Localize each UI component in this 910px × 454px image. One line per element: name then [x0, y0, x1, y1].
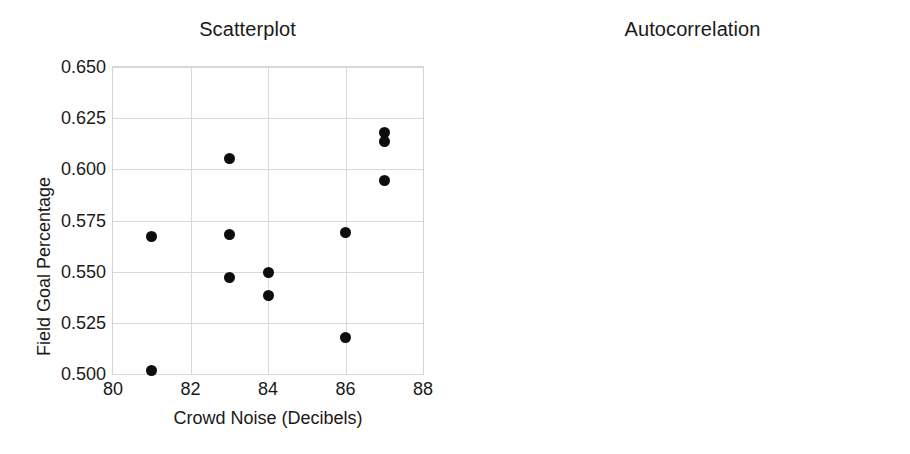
- chart-panel-scatterplot: Scatterplot 0.5000.5250.5500.5750.6000.6…: [0, 0, 455, 454]
- y-axis-title-scatterplot: Field Goal Percentage: [34, 177, 55, 356]
- y-axis-tick-label-scatterplot: 0.600: [61, 159, 113, 180]
- plot-area-scatterplot: 0.5000.5250.5500.5750.6000.6250.65080828…: [112, 66, 424, 375]
- y-axis-tick-label-scatterplot: 0.575: [61, 210, 113, 231]
- data-point: [340, 227, 351, 238]
- y-axis-tick-label-scatterplot: 0.650: [61, 57, 113, 78]
- data-point: [146, 231, 157, 242]
- x-axis-title-scatterplot: Crowd Noise (Decibels): [112, 408, 424, 429]
- figure-container: Scatterplot 0.5000.5250.5500.5750.6000.6…: [0, 0, 910, 454]
- chart-title-autocorrelation: Autocorrelation: [455, 18, 910, 41]
- y-axis-tick-label-scatterplot: 0.525: [61, 312, 113, 333]
- data-point: [224, 229, 235, 240]
- x-axis-tick-label-scatterplot: 80: [103, 374, 123, 400]
- x-axis-tick-label-scatterplot: 82: [180, 374, 200, 400]
- y-axis-tick-label-scatterplot: 0.625: [61, 108, 113, 129]
- data-point: [379, 136, 390, 147]
- gridline-vertical: [346, 67, 347, 374]
- data-point: [340, 332, 351, 343]
- data-point: [263, 267, 274, 278]
- chart-title-scatterplot: Scatterplot: [0, 18, 455, 41]
- data-point: [379, 175, 390, 186]
- x-axis-tick-label-scatterplot: 84: [258, 374, 278, 400]
- data-point: [224, 153, 235, 164]
- y-axis-tick-label-scatterplot: 0.550: [61, 261, 113, 282]
- chart-panel-autocorrelation: Autocorrelation -0.08-0.06-0.04-0.020.00…: [455, 0, 910, 454]
- gridline-vertical: [268, 67, 269, 374]
- x-axis-tick-label-scatterplot: 86: [335, 374, 355, 400]
- data-point: [224, 272, 235, 283]
- x-axis-tick-label-scatterplot: 88: [413, 374, 433, 400]
- gridline-vertical: [191, 67, 192, 374]
- data-point: [263, 290, 274, 301]
